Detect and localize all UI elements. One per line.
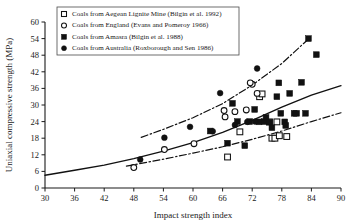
legend-marker-open-circle-icon: [62, 23, 67, 28]
legend-marker-filled-circle-icon: [62, 46, 67, 51]
x-axis-tick-label: 66: [218, 193, 227, 203]
legend-item-1: Coals from England (Evans and Pomeroy 19…: [62, 21, 209, 29]
legend-item-label: Coals from Australia (Roxborough and Sen…: [72, 44, 214, 52]
y-axis-tick-label: 60: [31, 17, 40, 27]
x-axis-tick-label: 48: [130, 193, 139, 203]
x-axis-tick-label: 60: [189, 193, 198, 203]
data-point: [217, 90, 223, 96]
data-point: [254, 66, 260, 72]
data-point: [254, 90, 260, 96]
data-point: [232, 122, 238, 128]
data-point: [274, 119, 280, 125]
x-axis-tick-label: 30: [41, 193, 50, 203]
data-point: [237, 129, 243, 135]
data-point: [232, 109, 238, 115]
y-axis-tick-label: 30: [31, 100, 40, 110]
data-point: [187, 124, 193, 130]
data-point: [137, 157, 143, 163]
chart-container: 3036424854606672788490061218243036424854…: [0, 0, 354, 223]
data-point: [303, 110, 309, 116]
y-axis-tick-label: 12: [31, 150, 40, 160]
data-point: [313, 52, 319, 58]
data-point: [222, 114, 228, 120]
x-axis-tick-label: 36: [70, 193, 79, 203]
x-axis-tick-label: 42: [100, 193, 109, 203]
data-point: [252, 107, 258, 113]
data-point: [287, 90, 293, 96]
data-point: [242, 143, 248, 149]
legend-item-label: Coals from Aegean Lignite Mine (Bilgin e…: [72, 10, 222, 18]
x-axis-tick-label: 72: [248, 193, 257, 203]
data-point: [278, 110, 284, 116]
data-point: [276, 80, 282, 86]
y-axis-tick-label: 18: [31, 133, 40, 143]
data-point: [299, 79, 305, 85]
y-axis-tick-label: 48: [31, 50, 40, 60]
data-point: [161, 147, 167, 153]
legend-item-0: Coals from Aegean Lignite Mine (Bilgin e…: [62, 10, 223, 18]
data-point: [294, 110, 300, 116]
legend-marker-open-square-icon: [62, 12, 67, 17]
x-axis-tick-label: 90: [337, 193, 346, 203]
y-axis-tick-label: 54: [31, 34, 40, 44]
data-point: [243, 107, 249, 113]
data-point: [131, 165, 137, 171]
legend-item-label: Coals from England (Evans and Pomeroy 19…: [72, 21, 209, 29]
x-axis-title: Impact strength index: [154, 210, 233, 220]
x-axis-tick-label: 54: [159, 193, 168, 203]
chart-legend: Coals from Aegean Lignite Mine (Bilgin e…: [57, 7, 239, 55]
data-point: [225, 140, 231, 146]
data-point: [221, 108, 227, 114]
y-axis-title: Uniaxial compressive strength (MPa): [4, 38, 14, 173]
data-point: [276, 133, 282, 139]
x-axis-tick-label: 84: [307, 193, 316, 203]
y-axis-tick-label: 0: [35, 183, 39, 193]
data-point: [283, 123, 289, 129]
data-point: [161, 135, 167, 141]
data-point: [191, 141, 197, 147]
data-point: [269, 125, 275, 131]
data-point: [244, 119, 250, 125]
legend-item-label: Coals from Amasra (Bilgin et al. 1988): [72, 33, 184, 41]
y-axis-tick-label: 36: [31, 83, 40, 93]
y-axis-tick-label: 6: [35, 166, 39, 176]
data-point: [267, 119, 273, 125]
data-point: [247, 80, 253, 86]
data-point: [210, 128, 216, 134]
data-point: [274, 94, 280, 100]
x-axis-tick-label: 78: [278, 193, 287, 203]
data-point: [306, 36, 312, 42]
y-axis-tick-label: 42: [31, 67, 40, 77]
data-point: [252, 119, 258, 125]
y-axis-tick-label: 24: [31, 117, 40, 127]
legend-item-3: Coals from Australia (Roxborough and Sen…: [62, 44, 215, 52]
legend-marker-filled-square-icon: [62, 34, 67, 39]
data-point: [225, 154, 231, 160]
legend-item-2: Coals from Amasra (Bilgin et al. 1988): [62, 33, 184, 41]
scatter-chart: 3036424854606672788490061218243036424854…: [0, 0, 354, 223]
data-point: [284, 134, 290, 140]
data-point: [230, 100, 236, 106]
